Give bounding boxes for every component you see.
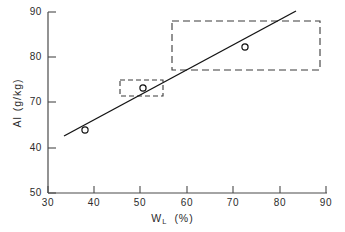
y-tick-label-60: 40 <box>4 142 42 153</box>
x-tick-label-50: 50 <box>126 197 154 208</box>
regression-line <box>64 11 296 136</box>
x-axis-title: WL(%) <box>0 212 345 226</box>
x-tick-label-90: 90 <box>312 197 340 208</box>
y-tick-label-80: 80 <box>4 51 42 62</box>
data-point <box>140 85 146 91</box>
x-axis-title-unit: (%) <box>174 212 193 224</box>
x-axis-title-main: W <box>151 212 162 224</box>
y-axis-title-unit: (g/kg) <box>11 78 23 111</box>
large-dashed-box <box>172 21 320 70</box>
y-axis-title-main: Al <box>11 116 23 127</box>
x-tick-label-60: 60 <box>173 197 201 208</box>
y-tick-label-70: 70 <box>4 96 42 107</box>
x-tick-label-40: 40 <box>80 197 108 208</box>
x-tick-label-30: 30 <box>34 197 62 208</box>
x-axis-ticks <box>48 186 326 193</box>
x-tick-label-80: 80 <box>266 197 294 208</box>
y-axis-title: Al(g/kg) <box>11 48 23 158</box>
data-point <box>82 127 88 133</box>
x-axis-title-subscript: L <box>162 217 166 226</box>
x-tick-label-70: 70 <box>219 197 247 208</box>
scatter-plot-figure: 90 80 70 40 50 30 40 50 60 70 80 90 Al(g… <box>0 0 345 232</box>
data-point <box>242 44 248 50</box>
y-tick-label-90: 90 <box>4 6 42 17</box>
y-axis-ticks <box>48 12 56 193</box>
